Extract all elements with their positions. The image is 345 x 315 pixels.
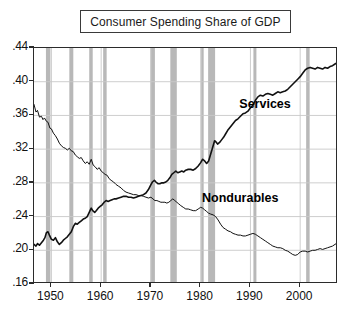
page-title: Consumer Spending Share of GDP — [81, 11, 290, 32]
x-tick-label: 1970 — [130, 289, 170, 303]
y-tick-label: .20 — [2, 241, 28, 255]
recession-band — [89, 48, 92, 283]
recession-band — [170, 48, 176, 283]
y-tick-label: .28 — [2, 174, 28, 188]
series-lines-group — [34, 62, 337, 255]
x-tick-label: 2000 — [279, 289, 319, 303]
recession-band — [306, 48, 309, 283]
y-tick-label: .44 — [2, 39, 28, 53]
recession-band — [103, 48, 106, 283]
y-tick-label: .40 — [2, 73, 28, 87]
y-tick-label: .24 — [2, 208, 28, 222]
recession-band — [46, 48, 50, 283]
recession-band — [69, 48, 73, 283]
recession-band — [208, 48, 215, 283]
series-line-nondurables — [34, 104, 337, 255]
x-tick-label: 1980 — [180, 289, 220, 303]
chart-title-box: Consumer Spending Share of GDP — [80, 10, 291, 33]
y-tick-label: .32 — [2, 140, 28, 154]
series-annotation-nondurables: Nondurables — [202, 191, 278, 205]
plot-area — [33, 47, 337, 283]
x-tick-label: 1950 — [30, 289, 70, 303]
plot-svg — [34, 48, 337, 283]
recession-band — [253, 48, 256, 283]
y-tick-label: .36 — [2, 106, 28, 120]
gridlines-group — [34, 48, 337, 283]
x-tick-label: 1960 — [80, 289, 120, 303]
recession-shading-group — [46, 48, 310, 283]
series-annotation-services: Services — [239, 97, 290, 111]
y-tick-label: .16 — [2, 275, 28, 289]
series-line-services — [34, 62, 337, 246]
x-tick-label: 1990 — [229, 289, 269, 303]
recession-band — [201, 48, 203, 283]
chart-root: Consumer Spending Share of GDP .44.40.36… — [0, 0, 345, 315]
